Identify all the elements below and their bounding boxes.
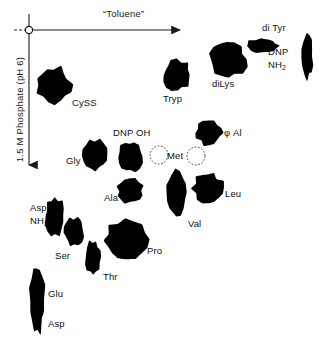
spot-label-dnp-oh: DNP OH [113,127,150,139]
spot-dilys [209,42,247,78]
spot-label-asp-nh2: Asp [30,202,47,214]
spot-label-dnp-nh2: DNP [268,46,288,58]
spot-label-dilys: diLys [212,78,234,90]
spot-leu [191,173,224,204]
spot-label-gly: Gly [66,155,81,167]
spot-pro [104,218,150,259]
spot-met-right [187,147,205,165]
y-axis-label: 1.5 M Phosphate (pH 6) [14,44,25,176]
spot-dnp-oh [118,143,143,172]
spot-gly [82,139,108,172]
origin-circle-icon [25,26,32,33]
chromatogram-figure: “Toluene” 1.5 M Phosphate (pH 6) CySSTry… [0,0,333,349]
spot-label-thr: Thr [103,271,118,283]
spot-label-asp-nh2-line2: NH2 [30,215,48,228]
spot-label-met: Met [167,150,183,162]
spot-label-val: Val [188,218,201,230]
spot-tryp [163,58,189,91]
spot-glu-asp [29,268,45,335]
spot-layer [29,33,313,335]
spot-ala [117,178,144,204]
spot-label-ser: Ser [55,250,70,262]
spot-label-phi-al: φ Al [224,127,242,139]
spot-cyss [37,66,74,105]
spot-label-dityr: di Tyr [262,22,286,34]
spot-val [166,169,186,217]
spot-met-left [150,146,168,164]
spot-label-leu: Leu [225,188,241,200]
spot-label-ala: Ala [104,192,118,204]
spot-ser [64,217,84,246]
spot-dnp-nh2 [301,33,313,81]
spot-label-cyss: CySS [72,97,97,109]
spot-label-glu-asp-line2: Asp [48,318,65,330]
spot-label-dnp-nh2-line2: NH2 [268,59,286,72]
spot-label-pro: Pro [147,245,162,257]
spot-label-tryp: Tryp [163,93,182,105]
spot-label-glu-asp: Glu [48,288,63,300]
spot-phi-al [195,120,223,146]
spot-thr [85,240,101,274]
x-axis-label: “Toluene” [103,8,144,19]
